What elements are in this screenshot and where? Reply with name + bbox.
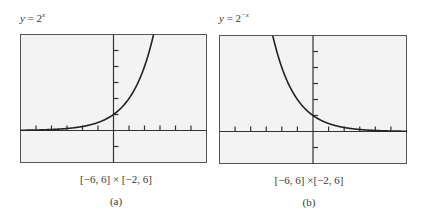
window-caption-b: [−6, 6] ×[−2, 6]: [203, 174, 415, 186]
graph-a: [0, 0, 212, 170]
panel-label-b: (b): [203, 196, 415, 208]
graph-b: [199, 0, 411, 170]
panel-a: y = 2x [−6, 6] × [−2, 6] (a): [0, 0, 212, 220]
panel-b: y = 2−x [−6, 6] ×[−2, 6] (b): [199, 0, 411, 220]
panel-label-a: (a): [10, 195, 222, 207]
window-caption-a: [−6, 6] × [−2, 6]: [10, 173, 222, 185]
